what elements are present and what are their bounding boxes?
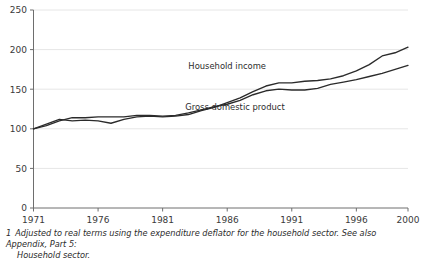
gridlines	[34, 10, 409, 168]
x-axis-tick-label: 1971	[22, 215, 45, 225]
line-chart: 050100150200250 197119761981198619911996…	[0, 0, 421, 225]
series-annotations: Household incomeGross domestic product	[185, 61, 285, 112]
footnote-line-2: Household sector.	[6, 250, 418, 261]
y-axis-tick-label: 250	[10, 5, 27, 15]
footnote-line-1: Adjusted to real terms using the expendi…	[6, 228, 376, 249]
y-axis-tick-label: 100	[10, 124, 27, 134]
x-axis-tick-label: 1981	[151, 215, 174, 225]
series-annotation-label: Household income	[188, 61, 266, 71]
series-line	[34, 65, 409, 128]
x-axis-tick-label: 1986	[216, 215, 239, 225]
x-axis: 1971197619811986199119962000	[22, 208, 420, 225]
x-axis-tick-label: 1996	[345, 215, 368, 225]
x-axis-tick-label: 1991	[280, 215, 303, 225]
y-axis-tick-label: 50	[16, 164, 28, 174]
y-axis-tick-label: 200	[10, 45, 27, 55]
footnote-number: 1	[6, 228, 11, 238]
series-annotation-label: Gross domestic product	[185, 102, 285, 112]
y-axis-tick-label: 150	[10, 85, 27, 95]
chart-footnote: 1Adjusted to real terms using the expend…	[6, 228, 418, 261]
x-axis-tick-label: 1976	[87, 215, 110, 225]
x-axis-tick-label: 2000	[397, 215, 420, 225]
y-axis-tick-label: 0	[21, 203, 27, 213]
series-line	[34, 47, 409, 129]
data-series	[34, 47, 409, 129]
y-axis: 050100150200250	[10, 5, 34, 213]
